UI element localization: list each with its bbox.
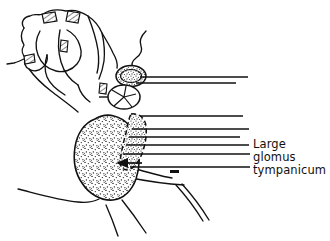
- figure-background: [0, 0, 330, 241]
- joint-segment-mid: [60, 40, 68, 52]
- glomus-label-line-2: glomus: [253, 150, 296, 164]
- joint-segment-left: [42, 12, 57, 23]
- joint-segment-lower-left: [24, 54, 35, 64]
- dash-mark: [170, 170, 179, 173]
- joint-segment-right: [66, 11, 80, 23]
- joint-segment-stapes: [99, 83, 107, 94]
- glomus-label-line-1: Large: [253, 137, 286, 151]
- glomus-label-line-3: tympanicum: [253, 163, 326, 177]
- figure-canvas: Large glomus tympanicum: [0, 0, 330, 241]
- anatomical-figure: Large glomus tympanicum: [0, 0, 330, 241]
